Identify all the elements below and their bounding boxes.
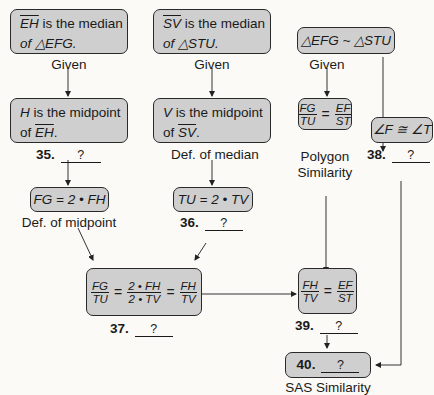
reason-polygon-similarity: Polygon Similarity bbox=[290, 149, 360, 181]
fraction-fh-tv: FHTV bbox=[180, 280, 197, 305]
numerator: 2 • FH bbox=[127, 280, 161, 293]
denominator: TU bbox=[92, 293, 107, 305]
statement-text: △EFG ~ △STU bbox=[301, 31, 391, 51]
point-v: V bbox=[163, 105, 172, 120]
statement-suffix: . bbox=[196, 125, 200, 140]
answer-blank-39[interactable]: ? bbox=[320, 319, 358, 334]
segment-eh: EH bbox=[35, 125, 54, 140]
step-number: 37. bbox=[110, 321, 129, 336]
statement-text: is the median bbox=[39, 16, 123, 31]
numerator: FH bbox=[301, 279, 318, 292]
denominator: TV bbox=[181, 293, 196, 305]
fraction-ef-st: EFST bbox=[337, 279, 354, 304]
reason-37: 37.? bbox=[110, 321, 200, 337]
fraction-fg-tu: FGTU bbox=[299, 102, 317, 127]
numerator: EF bbox=[335, 102, 352, 115]
statement-similar-triangles: △EFG ~ △STU bbox=[297, 27, 395, 54]
denominator: TV bbox=[303, 292, 318, 304]
statement-text: is the midpoint bbox=[172, 105, 263, 120]
denominator: TU bbox=[300, 115, 315, 127]
statement-median-eh: EH is the median of △EFG. bbox=[10, 9, 128, 54]
statement-ratio-chain: FGTU = 2 • FH2 • TV = FHTV bbox=[86, 268, 202, 316]
segment-sv: SV bbox=[178, 125, 196, 140]
answer-blank-35[interactable]: ? bbox=[61, 148, 101, 163]
fraction-fg-tu: FGTU bbox=[91, 280, 109, 305]
segment-sv: SV bbox=[163, 16, 181, 31]
answer-blank-36[interactable]: ? bbox=[205, 216, 243, 231]
reason-line2: Similarity bbox=[298, 165, 353, 180]
step-number: 35. bbox=[36, 147, 55, 162]
fraction-2fh-2tv: 2 • FH2 • TV bbox=[127, 280, 161, 305]
denominator: 2 • TV bbox=[129, 293, 161, 305]
statement-fh-tv-ratio: FHTV = EFST bbox=[298, 268, 357, 314]
statement-prefix: of bbox=[20, 125, 35, 140]
answer-blank-40[interactable]: ? bbox=[321, 358, 359, 373]
statement-text: is the median bbox=[181, 16, 265, 31]
denominator: ST bbox=[338, 292, 353, 304]
statement-suffix: . bbox=[54, 125, 58, 140]
segment-eh: EH bbox=[20, 16, 39, 31]
numerator: FG bbox=[299, 102, 317, 115]
reason-35: 35.? bbox=[10, 147, 128, 163]
reason-def-median: Def. of median bbox=[153, 147, 271, 163]
statement-angle-congruence: ∠F ≅ ∠T bbox=[371, 117, 433, 143]
numerator: FH bbox=[180, 280, 197, 293]
statement-fg-equals-2fh: FG = 2 • FH bbox=[30, 187, 109, 212]
statement-tu-equals-2tv: TU = 2 • TV bbox=[173, 187, 253, 212]
step-number: 39. bbox=[295, 318, 314, 333]
answer-blank-37[interactable]: ? bbox=[135, 322, 173, 337]
reason-given-2: Given bbox=[153, 57, 271, 73]
step-number: 40. bbox=[297, 355, 316, 375]
reason-39: 39.? bbox=[295, 318, 375, 334]
reason-line1: Polygon bbox=[301, 149, 350, 164]
fraction-fh-tv: FHTV bbox=[301, 279, 318, 304]
statement-midpoint-h: H is the midpoint of EH. bbox=[10, 98, 128, 143]
step-number: 36. bbox=[180, 215, 199, 230]
equals-sign: = bbox=[324, 281, 332, 301]
equals-sign: = bbox=[166, 282, 174, 302]
fraction-ef-st: EFST bbox=[335, 102, 352, 127]
statement-prefix: of bbox=[163, 125, 178, 140]
step-number: 38. bbox=[367, 147, 386, 162]
numerator: FG bbox=[91, 280, 109, 293]
reason-def-midpoint: Def. of midpoint bbox=[10, 215, 128, 231]
numerator: EF bbox=[337, 279, 354, 292]
answer-blank-38[interactable]: ? bbox=[392, 148, 430, 163]
statement-text-line2: of △STU. bbox=[163, 36, 219, 51]
reason-given-1: Given bbox=[10, 57, 128, 73]
reason-sas-similarity: SAS Similarity bbox=[275, 380, 381, 395]
denominator: ST bbox=[336, 115, 351, 127]
statement-text: TU = 2 • TV bbox=[178, 190, 248, 210]
equals-sign: = bbox=[114, 282, 122, 302]
statement-text-line2: of △EFG. bbox=[20, 36, 77, 51]
reason-38: 38.? bbox=[367, 147, 434, 163]
statement-midpoint-v: V is the midpoint of SV. bbox=[153, 98, 271, 143]
statement-polygon-ratio: FGTU = EFST bbox=[298, 98, 352, 130]
point-h: H bbox=[20, 105, 30, 120]
statement-final-40: 40.? bbox=[285, 352, 371, 378]
statement-text: ∠F ≅ ∠T bbox=[373, 120, 432, 140]
statement-text: is the midpoint bbox=[30, 105, 121, 120]
equals-sign: = bbox=[322, 104, 330, 124]
reason-36: 36.? bbox=[180, 215, 260, 231]
statement-median-sv: SV is the median of △STU. bbox=[153, 9, 271, 54]
reason-given-3: Given bbox=[297, 57, 357, 73]
statement-text: FG = 2 • FH bbox=[34, 190, 106, 210]
